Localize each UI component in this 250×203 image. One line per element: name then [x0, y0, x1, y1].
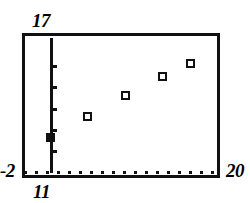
x-min-label: 11: [33, 182, 50, 201]
x-max-label: 20: [226, 161, 244, 180]
y-axis-tick-0: [50, 150, 57, 153]
data-point-3: [158, 72, 167, 81]
y-axis-tick-2: [50, 108, 57, 111]
y-min-label: -2: [0, 161, 15, 180]
data-point-1: [83, 112, 92, 121]
y-axis-tick-3: [50, 86, 57, 89]
y-axis-tick-4: [50, 65, 57, 68]
data-point-2: [121, 91, 130, 100]
data-point-0: [46, 133, 55, 142]
x-axis-dotted-line: [24, 171, 219, 174]
y-max-label: 17: [32, 11, 50, 30]
y-axis-tick-1: [50, 129, 57, 132]
data-point-4: [186, 59, 195, 68]
calculator-graph-screen: 17 -2 11 20: [0, 0, 250, 203]
